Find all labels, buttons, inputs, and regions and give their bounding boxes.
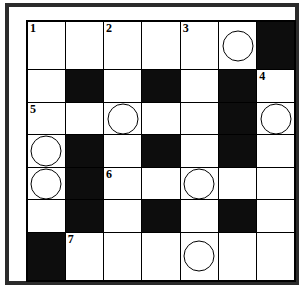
crossword-open-cell[interactable] (104, 70, 142, 103)
crossword-open-cell[interactable]: 6 (104, 167, 142, 200)
crossword-open-cell[interactable] (104, 232, 142, 281)
crossword-open-cell[interactable] (142, 167, 180, 200)
clue-number: 3 (183, 22, 189, 34)
circle-marker-icon (184, 241, 215, 272)
crossword-open-cell[interactable] (65, 102, 103, 135)
crossword-open-cell[interactable]: 1 (27, 21, 65, 70)
crossword-open-cell[interactable]: 2 (104, 21, 142, 70)
crossword-open-cell[interactable] (218, 167, 256, 200)
crossword-open-cell[interactable] (142, 21, 180, 70)
crossword-block-cell (142, 70, 180, 103)
crossword-open-cell[interactable] (218, 21, 256, 70)
crossword-block-cell (218, 135, 256, 168)
crossword-block-cell (65, 70, 103, 103)
crossword-block-cell (142, 200, 180, 233)
crossword-open-cell[interactable] (27, 200, 65, 233)
crossword-block-cell (142, 135, 180, 168)
circle-marker-icon (222, 30, 253, 61)
clue-number: 7 (68, 233, 74, 245)
clue-number: 2 (106, 22, 112, 34)
crossword-open-cell[interactable] (65, 21, 103, 70)
crossword-row: 5 (27, 102, 295, 135)
crossword-open-cell[interactable] (180, 102, 218, 135)
crossword-grid-body: 1234567 (27, 21, 295, 281)
crossword-open-cell[interactable] (104, 200, 142, 233)
crossword-open-cell[interactable] (257, 135, 295, 168)
crossword-grid[interactable]: 1234567 (26, 20, 296, 282)
crossword-open-cell[interactable]: 7 (65, 232, 103, 281)
crossword-open-cell[interactable] (104, 135, 142, 168)
crossword-open-cell[interactable] (180, 232, 218, 281)
crossword-open-cell[interactable] (27, 135, 65, 168)
crossword-row (27, 135, 295, 168)
clue-number: 1 (30, 22, 36, 34)
crossword-row: 6 (27, 167, 295, 200)
crossword-block-cell (27, 232, 65, 281)
crossword-row: 7 (27, 232, 295, 281)
crossword-open-cell[interactable] (180, 200, 218, 233)
circle-marker-icon (31, 136, 62, 167)
circle-marker-icon (184, 168, 215, 199)
crossword-block-cell (218, 102, 256, 135)
crossword-open-cell[interactable] (180, 135, 218, 168)
crossword-open-cell[interactable]: 5 (27, 102, 65, 135)
crossword-row: 4 (27, 70, 295, 103)
puzzle-frame: 1234567 (5, 3, 299, 285)
clue-number: 5 (30, 103, 36, 115)
crossword-block-cell (218, 200, 256, 233)
crossword-block-cell (65, 167, 103, 200)
crossword-block-cell (65, 200, 103, 233)
crossword-open-cell[interactable] (257, 167, 295, 200)
crossword-row: 123 (27, 21, 295, 70)
crossword-open-cell[interactable] (142, 232, 180, 281)
circle-marker-icon (31, 168, 62, 199)
crossword-block-cell (218, 70, 256, 103)
crossword-open-cell[interactable] (27, 70, 65, 103)
crossword-open-cell[interactable] (180, 70, 218, 103)
crossword-open-cell[interactable] (180, 167, 218, 200)
crossword-open-cell[interactable]: 3 (180, 21, 218, 70)
crossword-open-cell[interactable] (218, 232, 256, 281)
crossword-open-cell[interactable] (104, 102, 142, 135)
crossword-open-cell[interactable] (257, 102, 295, 135)
circle-marker-icon (260, 103, 291, 134)
crossword-open-cell[interactable]: 4 (257, 70, 295, 103)
crossword-open-cell[interactable] (27, 167, 65, 200)
clue-number: 4 (259, 70, 265, 82)
crossword-grid-container: 1234567 (26, 20, 296, 282)
crossword-open-cell[interactable] (142, 102, 180, 135)
crossword-open-cell[interactable] (257, 232, 295, 281)
circle-marker-icon (107, 103, 138, 134)
crossword-block-cell (65, 135, 103, 168)
crossword-row (27, 200, 295, 233)
clue-number: 6 (106, 168, 112, 180)
crossword-block-cell (257, 21, 295, 70)
crossword-open-cell[interactable] (257, 200, 295, 233)
